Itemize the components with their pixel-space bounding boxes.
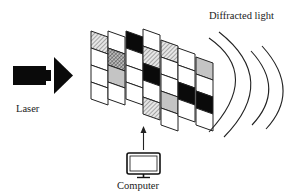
computer-label: Computer xyxy=(117,180,159,191)
laser-label: Laser xyxy=(16,103,39,114)
laser-icon xyxy=(13,57,73,94)
slm-diagram: Laser Computer Diffracted light xyxy=(0,0,301,194)
computer-monitor-icon xyxy=(127,153,160,178)
spatial-light-modulator-grid xyxy=(91,29,213,131)
diagram-canvas xyxy=(0,0,301,194)
control-arrow-icon xyxy=(141,126,147,150)
diffracted-wave-icon xyxy=(209,32,283,137)
diffracted-light-label: Diffracted light xyxy=(209,10,274,21)
